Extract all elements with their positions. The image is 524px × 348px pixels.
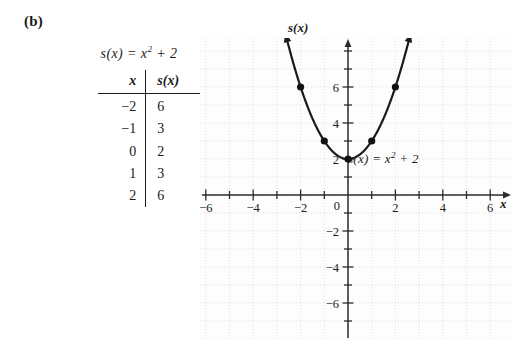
data-point <box>392 83 399 90</box>
table-cell-y: 2 <box>146 141 200 163</box>
tick-label: −2 <box>294 201 307 215</box>
formula-tail: + 2 <box>152 46 177 61</box>
table-cell-x: 2 <box>98 185 146 207</box>
tick-label: 0 <box>334 199 340 213</box>
panel-label: (b) <box>24 13 43 30</box>
table-block: s(x) = x2 + 2 x s(x) −2 6 −1 3 0 <box>72 44 200 207</box>
tick-label: −4 <box>247 201 261 215</box>
tick-label: −2 <box>326 225 339 239</box>
table-row: 2 6 <box>98 185 200 207</box>
tick-label: 4 <box>440 201 447 215</box>
y-axis-label: s(x) <box>288 20 308 36</box>
curve-label-tail: + 2 <box>396 151 419 166</box>
table-cell-y: 6 <box>146 93 200 118</box>
tick-label: −6 <box>200 201 212 215</box>
tick-label: −6 <box>326 297 339 311</box>
tick-label: 6 <box>487 201 493 215</box>
table-cell-x: −1 <box>98 118 146 140</box>
table-cell-x: −2 <box>98 93 146 118</box>
plot-svg: −6−4−2246−6−4−22460 <box>200 38 512 340</box>
table-cell-y: 3 <box>146 118 200 140</box>
table-cell-y: 3 <box>146 163 200 185</box>
tick-label: −4 <box>326 261 340 275</box>
table-header-x: x <box>98 70 146 94</box>
table-row: 0 2 <box>98 141 200 163</box>
table-row: −2 6 <box>98 93 200 118</box>
table-cell-y: 6 <box>146 185 200 207</box>
curve-equation-label: s(x) = x2 + 2 <box>348 150 419 167</box>
data-point <box>297 83 304 90</box>
table-row: −1 3 <box>98 118 200 140</box>
plot-background <box>200 38 512 340</box>
table-cell-x: 0 <box>98 141 146 163</box>
figure-root: (b) s(x) = x2 + 2 x s(x) −2 6 −1 3 <box>0 0 524 348</box>
values-table: x s(x) −2 6 −1 3 0 2 1 3 <box>98 70 200 208</box>
coordinate-plot: −6−4−2246−6−4−22460 <box>200 38 512 340</box>
formula-head: s(x) = x <box>101 46 148 61</box>
tick-label: 4 <box>333 117 340 131</box>
data-point <box>368 137 375 144</box>
table-row: 1 3 <box>98 163 200 185</box>
table-cell-x: 1 <box>98 163 146 185</box>
curve-label-head: s(x) = x <box>348 151 391 166</box>
table-header-y: s(x) <box>146 70 200 94</box>
tick-label: 6 <box>333 81 339 95</box>
table-header-row: x s(x) <box>98 70 200 94</box>
data-point <box>321 137 328 144</box>
tick-label: 2 <box>392 201 398 215</box>
x-axis-label: x <box>500 196 507 212</box>
function-formula: s(x) = x2 + 2 <box>78 44 200 62</box>
